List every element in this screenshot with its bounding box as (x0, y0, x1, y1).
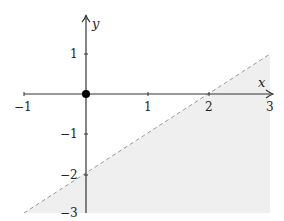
x-axis-label: x (258, 75, 266, 90)
x-tick-label: 1 (144, 100, 152, 114)
y-tick-label: −3 (60, 206, 78, 220)
y-axis-label: y (91, 16, 100, 31)
y-tick-label: −2 (60, 168, 78, 182)
x-tick-label: 3 (266, 100, 274, 114)
x-tick-label: 2 (205, 100, 213, 114)
y-tick-label: −1 (60, 127, 78, 141)
inequality-plot: x y −1 1 2 3 1 −1 −2 −3 (0, 0, 284, 221)
y-tick-label: 1 (70, 47, 78, 61)
origin-point (82, 90, 90, 98)
x-tick-label: −1 (14, 100, 32, 114)
